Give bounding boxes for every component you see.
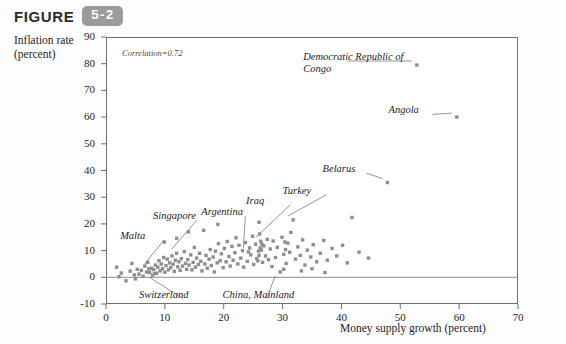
figure-number-badge: 5-2 — [82, 6, 123, 26]
country-annotation-label: Angola — [389, 104, 419, 116]
figure-word: FIGURE — [14, 8, 74, 25]
x-axis-title: Money supply growth (percent) — [340, 322, 486, 334]
y-tick-label: 60 — [69, 110, 95, 122]
country-annotation-label: Iraq — [246, 195, 264, 207]
y-tick-label: 20 — [69, 217, 95, 229]
y-tick-label: 90 — [69, 30, 95, 42]
x-tick-label: 10 — [150, 311, 180, 323]
x-tick-label: 20 — [209, 311, 239, 323]
y-tick-label: 30 — [69, 190, 95, 202]
y-tick-label: 50 — [69, 137, 95, 149]
x-tick-label: 40 — [326, 311, 356, 323]
y-tick-label: 70 — [69, 83, 95, 95]
y-tick-label: 40 — [69, 164, 95, 176]
figure-container: FIGURE 5-2 Inflation rate (percent) Mone… — [0, 0, 566, 344]
country-annotation-label: Turkey — [283, 185, 312, 197]
country-annotation-label: Argentina — [201, 206, 243, 218]
x-tick-label: 50 — [385, 311, 415, 323]
country-annotation-label: Belarus — [323, 163, 356, 175]
country-annotation-label: China, Mainland — [223, 289, 295, 301]
x-tick-label: 60 — [444, 311, 474, 323]
y-tick-label: 10 — [69, 244, 95, 256]
plot-frame — [106, 37, 518, 304]
country-annotation-label: Democratic Republic of Congo — [303, 51, 415, 75]
y-tick-label: 80 — [69, 57, 95, 69]
figure-header: FIGURE 5-2 — [14, 5, 123, 27]
country-annotation-label: Singapore — [153, 210, 196, 222]
y-tick-label: -10 — [69, 297, 95, 309]
x-tick-label: 70 — [503, 311, 533, 323]
x-tick-label: 0 — [91, 311, 121, 323]
country-annotation-label: Malta — [120, 230, 145, 242]
y-tick-label: 0 — [69, 270, 95, 282]
correlation-annotation: Correlation=0.72 — [122, 48, 182, 58]
x-tick-label: 30 — [268, 311, 298, 323]
country-annotation-label: Switzerland — [139, 289, 189, 301]
